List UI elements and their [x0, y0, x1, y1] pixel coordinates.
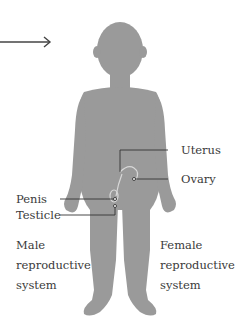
ovary-label: Ovary	[181, 172, 216, 187]
female-system-label: Female reproductive system	[160, 235, 235, 295]
male-system-label: Male reproductive system	[16, 235, 91, 295]
penis-label: Penis	[16, 192, 47, 207]
testicle-label: Testicle	[16, 208, 61, 223]
pointer-arrow-icon	[0, 37, 50, 47]
reproductive-system-diagram: Uterus Ovary Penis Testicle Male reprodu…	[0, 0, 235, 336]
uterus-label: Uterus	[181, 143, 221, 158]
